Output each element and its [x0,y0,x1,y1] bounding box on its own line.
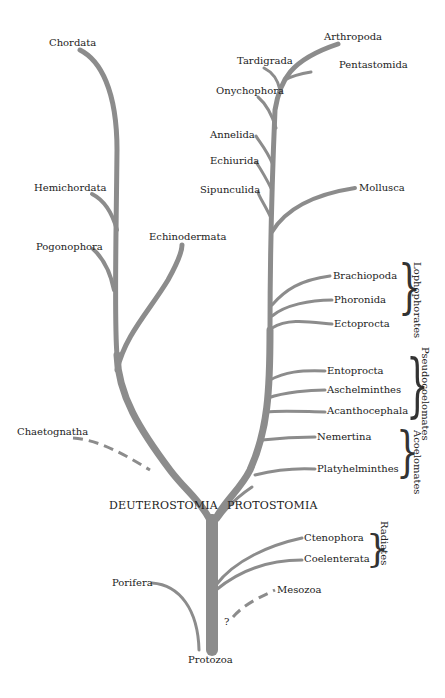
deuterostomia-stem [117,355,210,520]
phoronida-branch [272,300,332,316]
group-lophophorates: Lophophorates [411,262,423,338]
label-uncertain: ? [224,616,229,628]
label-pogonophora: Pogonophora [36,241,103,253]
label-protozoa: Protozoa [188,654,233,666]
label-ectoprocta: Ectoprocta [334,318,390,330]
label-platyhelminthes: Platyhelminthes [317,463,399,475]
label-entoprocta: Entoprocta [327,365,384,377]
label-chordata: Chordata [49,37,96,49]
mollusca-branch [272,188,355,232]
label-aschelminthes: Aschelminthes [327,384,401,396]
group-acoelomates: Acoelomates [411,430,423,495]
label-brachiopoda: Brachiopoda [333,270,397,282]
chaetognatha-branch [73,438,150,470]
acanthocephala-branch [265,411,325,412]
platyhelminthes-branch [255,469,315,475]
label-phoronida: Phoronida [334,294,386,306]
echinodermata-branch [117,245,182,370]
label-ctenophora: Ctenophora [304,532,364,544]
aschelminthes-branch [268,390,325,398]
entoprocta-branch [270,371,325,380]
label-deuterostomia: DEUTEROSTOMIA [109,500,218,512]
pogonophora-branch [93,249,114,290]
label-tardigrada: Tardigrada [237,55,293,67]
label-protostomia: PROTOSTOMIA [227,500,318,512]
mesozoa-branch [233,590,275,617]
ectoprocta-branch [272,322,332,329]
porifera-branch [152,583,199,650]
phylogenetic-tree [0,0,445,698]
label-sipunculida: Sipunculida [200,184,260,196]
group-radiates: Radiates [378,521,390,565]
label-arthropoda: Arthropoda [324,31,382,43]
label-hemichordata: Hemichordata [34,182,107,194]
label-chaetognatha: Chaetognatha [17,426,88,438]
label-coelenterata: Coelenterata [304,553,370,565]
hemichordata-branch [92,194,117,230]
label-mollusca: Mollusca [359,182,405,194]
label-onychophora: Onychophora [216,85,284,97]
label-echinodermata: Echinodermata [149,231,227,243]
group-pseudocoelomates: Pseudocoelomates [419,347,431,441]
label-porifera: Porifera [112,577,153,589]
nemertina-branch [262,437,315,440]
label-nemertina: Nemertina [317,431,371,443]
protostomia-stem [215,330,270,520]
label-echiurida: Echiurida [210,155,259,167]
label-pentastomida: Pentastomida [339,59,408,71]
label-mesozoa: Mesozoa [277,584,322,596]
chordata-branch [80,50,117,355]
label-annelida: Annelida [210,129,255,141]
label-acanthocephala: Acanthocephala [327,405,408,417]
